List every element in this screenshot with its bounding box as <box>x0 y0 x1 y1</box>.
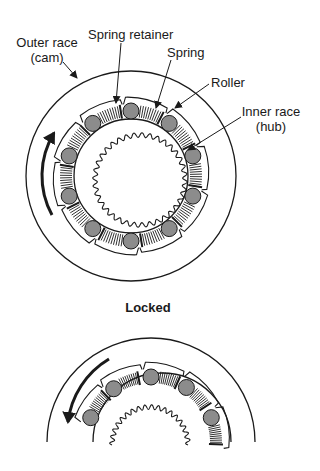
spring-coil <box>209 431 221 433</box>
spring-coil <box>190 169 202 170</box>
spring-coil <box>161 372 163 384</box>
roller-icon <box>161 221 177 237</box>
spring-coil <box>102 111 107 122</box>
roller-icon <box>123 233 139 249</box>
roller-icon <box>83 410 99 426</box>
spring-coil <box>210 438 222 439</box>
spring-coil <box>210 436 222 437</box>
top-clutch-view <box>26 43 241 281</box>
roller-icon <box>185 188 201 204</box>
roller-icon <box>123 103 139 119</box>
roller-clutch-diagram <box>0 0 320 471</box>
spring-coil <box>116 234 119 246</box>
spring-coil <box>189 166 201 168</box>
spring-coil <box>68 143 79 149</box>
spring-coil <box>70 140 80 146</box>
spring-coil <box>104 230 109 241</box>
label-outer-race: Outer race (cam) <box>14 35 80 65</box>
roller-icon <box>178 379 194 395</box>
label-inner-race-line2: (hub) <box>240 119 302 134</box>
spring-coil <box>210 433 222 434</box>
roller-icon <box>185 148 201 164</box>
bottom-clutch-view <box>47 338 255 448</box>
spring-coil <box>61 184 73 186</box>
spring-coil <box>183 204 194 210</box>
spring-coil <box>60 173 72 174</box>
spring-retainer <box>188 185 202 187</box>
label-outer-race-line2: (cam) <box>14 50 80 65</box>
roller-icon <box>161 115 177 131</box>
roller-icon <box>85 115 101 131</box>
spring-coil <box>61 167 73 168</box>
spring-coil <box>182 206 192 212</box>
spring-leader <box>156 60 171 108</box>
roller-icon <box>106 381 122 397</box>
roller-icon <box>85 221 101 237</box>
label-inner-race: Inner race (hub) <box>240 104 302 134</box>
label-inner-race-line1: Inner race <box>240 104 302 119</box>
spring-coil <box>143 107 146 119</box>
spring-coil <box>190 181 202 182</box>
label-roller: Roller <box>211 75 245 90</box>
label-spring-retainer: Spring retainer <box>88 27 173 42</box>
spring-retainer <box>60 165 74 167</box>
rotation-arrow-ccw-icon <box>42 133 54 215</box>
spring-coil <box>190 183 202 184</box>
spring-retainer <box>140 233 142 247</box>
spring-coil <box>60 170 72 171</box>
roller-icon <box>203 410 219 426</box>
spring-retainer <box>120 105 122 119</box>
spring-coil <box>190 179 202 180</box>
spring-coil <box>60 182 72 183</box>
spring-coil <box>172 375 176 386</box>
roller-icon <box>143 369 159 385</box>
roller-icon <box>61 188 77 204</box>
spring-retainer-leader <box>116 43 121 103</box>
splined-hub-partial-icon <box>110 405 190 445</box>
caption-locked: Locked <box>0 300 296 315</box>
roller-icon <box>61 148 77 164</box>
label-spring: Spring <box>167 45 205 60</box>
label-outer-race-line1: Outer race <box>14 35 80 50</box>
spring-coil <box>119 234 121 246</box>
spring-coil <box>154 111 159 122</box>
inner-race-circle <box>74 119 188 233</box>
spring-coil <box>60 180 72 181</box>
roller-leader <box>175 84 209 108</box>
spring-coil <box>190 171 202 172</box>
spring-coil <box>141 106 143 118</box>
spring-coil <box>155 230 160 241</box>
